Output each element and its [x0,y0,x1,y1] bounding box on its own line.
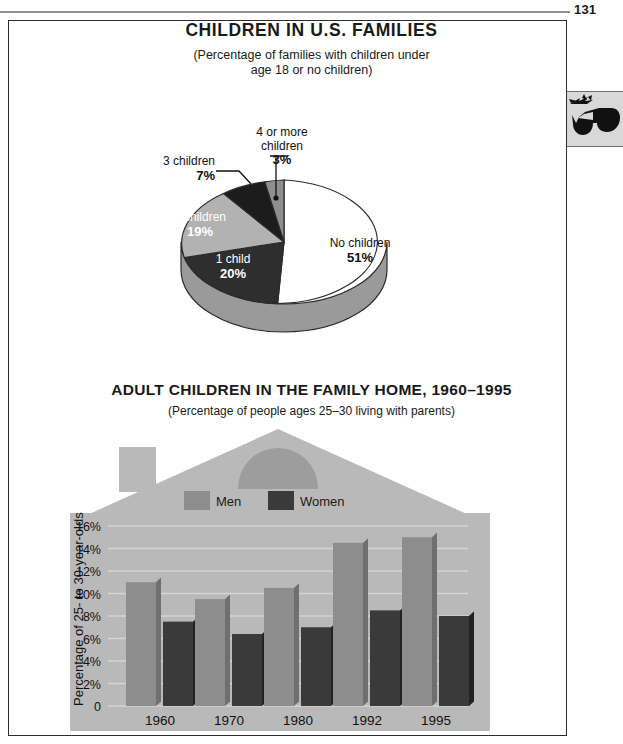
bar-men-1992 [333,543,363,706]
pie-value-three-children: 7% [196,168,215,183]
pie-value-one-child: 20% [220,266,246,281]
bar-women-1992 [370,610,400,706]
pie-label-four-or-more: 4 or more children 3% [232,126,332,168]
pie-subtitle-line-1: (Percentage of families with children un… [193,48,429,62]
pie-value-four-or-more: 3% [273,152,292,167]
pie-leader-dot [273,195,278,200]
xtick-1980: 1980 [283,713,313,728]
pie-label-four-or-more-line2: children [261,139,303,153]
legend-swatch-men [184,491,210,510]
bar-chart-subtitle: (Percentage of people ages 25–30 living … [0,404,623,418]
bar-men-1970-side [225,594,230,706]
pie-label-two-children-text: 2 children [174,210,226,224]
pie-subtitle-line-2: age 18 or no children) [251,63,373,77]
bar-women-1980 [301,627,331,706]
pie-value-two-children: 19% [187,224,213,239]
bar-men-1992-side [363,538,368,706]
xtick-1992: 1992 [352,713,382,728]
bar-chart: Men Women 16% 14% 12% 10% 8% [0,425,559,744]
pie-value-no-children: 51% [347,250,373,265]
pie-label-no-children-text: No children [330,236,391,250]
bar-women-1995 [439,616,469,706]
legend-swatch-women [268,491,294,510]
pie-label-two-children: 2 children 19% [155,211,245,239]
ytick-0: 0 [94,700,101,714]
bar-men-1970 [195,599,225,706]
bar-men-1995 [402,537,432,706]
page-canvas: 131 CHILDREN IN U.S. FAMILIES (Percentag… [0,0,623,744]
bar-women-1960 [163,622,193,706]
pie-chart-title: CHILDREN IN U.S. FAMILIES [0,20,623,41]
page-number: 131 [574,2,620,17]
pie-label-no-children: No children 51% [305,237,415,265]
xtick-1970: 1970 [214,713,244,728]
pie-label-four-or-more-line1: 4 or more [256,125,307,139]
legend-label-women: Women [300,494,345,509]
bar-men-1980-side [294,583,299,706]
pie-label-three-children-text: 3 children [163,154,215,168]
xtick-1960: 1960 [145,713,175,728]
bar-women-1995-side [469,611,474,706]
bar-men-1960-side [156,578,161,707]
margin-icon-bottom-rule [566,146,623,147]
header-rule [0,11,570,13]
pie-label-one-child: 1 child 20% [193,253,273,281]
bar-chart-title: ADULT CHILDREN IN THE FAMILY HOME, 1960–… [0,381,623,399]
bar-men-1960 [126,582,156,706]
sunglasses-icon [566,92,623,146]
pie-chart-subtitle: (Percentage of families with children un… [0,48,623,78]
pie-label-three-children: 3 children 7% [120,155,215,183]
bar-y-axis-title: Percentage of 25- to 30-year-olds [71,512,86,706]
bar-men-1980 [264,588,294,706]
xtick-1995: 1995 [421,713,451,728]
pie-label-one-child-text: 1 child [216,252,251,266]
bar-men-1995-side [432,533,437,707]
legend-label-men: Men [216,494,241,509]
bar-women-1970 [232,634,262,706]
